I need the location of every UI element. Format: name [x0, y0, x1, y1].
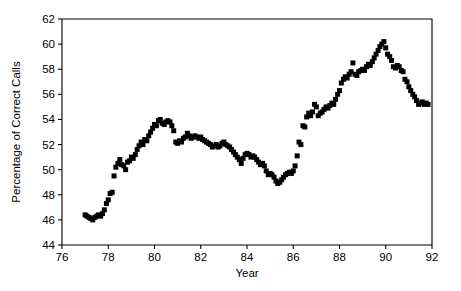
y-tick-label-56: 56 — [42, 88, 55, 100]
data-point — [295, 153, 300, 158]
data-point — [298, 142, 303, 147]
data-point — [110, 190, 115, 195]
data-point — [112, 173, 117, 178]
data-point — [239, 161, 244, 166]
y-tick-label-46: 46 — [42, 214, 55, 226]
y-tick-label-44: 44 — [42, 239, 55, 251]
x-tick-label-84: 84 — [241, 251, 254, 263]
data-point — [383, 45, 388, 50]
data-point — [171, 128, 176, 133]
data-point — [262, 163, 267, 168]
y-tick-label-62: 62 — [42, 13, 55, 25]
y-tick-label-52: 52 — [42, 139, 55, 151]
scatter-plot: 44464850525456586062767880828486889092Ye… — [0, 0, 461, 291]
y-tick-label-54: 54 — [42, 113, 55, 125]
data-point — [154, 123, 159, 128]
x-tick-label-88: 88 — [333, 251, 346, 263]
data-point — [310, 109, 315, 114]
x-tick-label-78: 78 — [102, 251, 115, 263]
x-tick-label-76: 76 — [56, 251, 69, 263]
data-series-percentage-of-correct-calls — [83, 39, 431, 222]
data-point — [123, 167, 128, 172]
x-axis-title: Year — [235, 267, 258, 279]
data-point — [102, 207, 107, 212]
x-tick-label-82: 82 — [194, 251, 207, 263]
data-point — [350, 60, 355, 65]
data-point — [106, 197, 111, 202]
data-point — [405, 79, 410, 84]
data-point — [381, 39, 386, 44]
data-point — [133, 152, 138, 157]
x-tick-label-92: 92 — [426, 251, 439, 263]
data-point — [331, 102, 336, 107]
data-point — [293, 163, 298, 168]
data-point — [426, 102, 431, 107]
y-tick-label-50: 50 — [42, 164, 55, 176]
x-tick-label-80: 80 — [148, 251, 161, 263]
data-point — [291, 168, 296, 173]
x-tick-label-86: 86 — [287, 251, 300, 263]
x-tick-label-90: 90 — [379, 251, 392, 263]
data-point — [314, 104, 319, 109]
data-point — [169, 123, 174, 128]
data-point — [389, 58, 394, 63]
data-point — [144, 138, 149, 143]
data-point — [337, 88, 342, 93]
data-point — [302, 124, 307, 129]
y-tick-label-58: 58 — [42, 63, 55, 75]
y-tick-label-48: 48 — [42, 189, 55, 201]
data-point — [117, 157, 122, 162]
data-point — [401, 69, 406, 74]
y-tick-label-60: 60 — [42, 38, 55, 50]
chart-figure: 44464850525456586062767880828486889092Ye… — [0, 0, 461, 291]
data-point — [333, 97, 338, 102]
y-axis-title: Percentage of Correct Calls — [10, 61, 22, 203]
